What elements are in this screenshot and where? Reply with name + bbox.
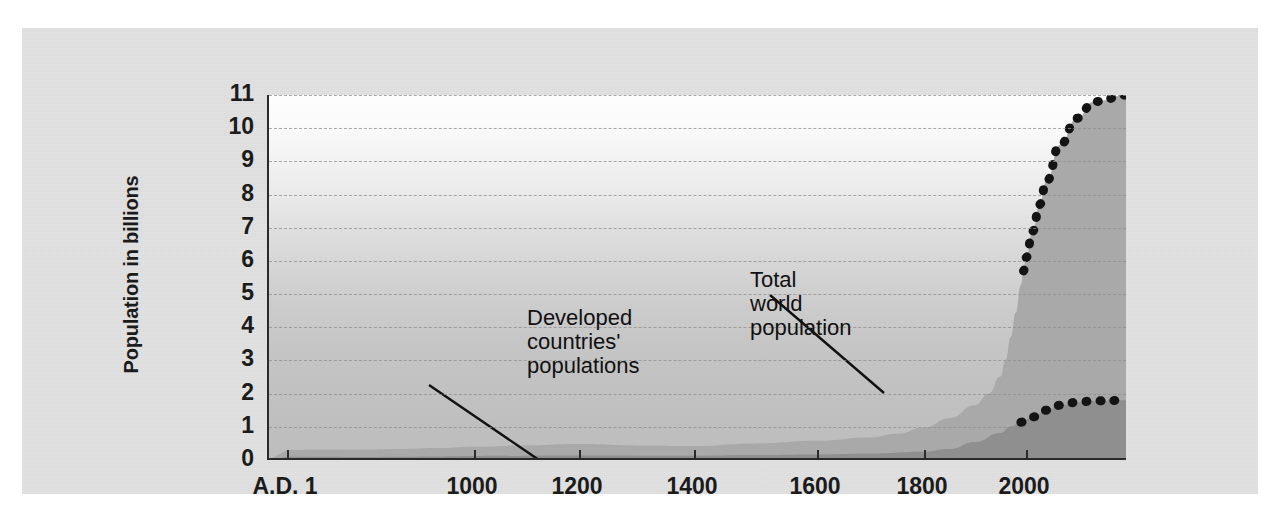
total-world-population-label: Total world population [750,268,852,339]
y-axis-tick-label: 6 [220,248,254,271]
gridline [269,294,1126,295]
gridline [269,161,1126,162]
y-axis-tick-label: 10 [220,115,254,138]
gridline [269,327,1126,328]
chart-series-canvas [269,95,1126,460]
y-axis-tick-label: 4 [220,314,254,337]
x-axis-tick-label: 1200 [551,473,602,500]
x-axis-tick-mark [924,450,926,460]
x-axis-tick-mark [1026,450,1028,460]
x-axis-tick-mark [474,450,476,460]
gridline [269,228,1126,229]
x-axis-tick-label: 1400 [666,473,717,500]
figure-caption-sliver: Figure: world population growth [140,0,660,6]
gridline [269,128,1126,129]
gridline [269,427,1126,428]
y-axis-tick-label: 9 [220,148,254,171]
y-axis-tick-group: 11109876543210 [214,28,254,494]
x-axis-tick-mark [694,450,696,460]
gridline [269,261,1126,262]
x-axis-tick-group: A.D. 1100012001400160018002000 [267,469,1126,509]
plot-area [267,95,1126,460]
x-axis-tick-mark [817,450,819,460]
y-axis-tick-label: 3 [220,347,254,370]
y-axis-tick-label: 7 [220,215,254,238]
figure-panel: Population in billions 11109876543210 A.… [22,28,1258,494]
x-axis-tick-mark [579,450,581,460]
developed-countries-label: Developed countries' populations [527,306,640,377]
y-axis-tick-label: 5 [220,281,254,304]
y-axis-tick-label: 0 [220,447,254,470]
x-axis-tick-label: 1000 [446,473,497,500]
gridline [269,394,1126,395]
y-axis-title: Population in billions [120,125,143,425]
y-axis-tick-label: 1 [220,414,254,437]
x-axis-tick-mark [287,450,289,460]
y-axis-tick-label: 2 [220,381,254,404]
x-axis-tick-label: A.D. 1 [252,473,317,500]
gridline [269,360,1126,361]
gridline [269,95,1126,96]
series-total-world-population [269,95,1126,460]
x-axis-tick-label: 2000 [998,473,1049,500]
x-axis-tick-label: 1600 [789,473,840,500]
x-axis-tick-label: 1800 [896,473,947,500]
y-axis-tick-label: 8 [220,182,254,205]
gridline [269,195,1126,196]
y-axis-tick-label: 11 [220,82,254,105]
